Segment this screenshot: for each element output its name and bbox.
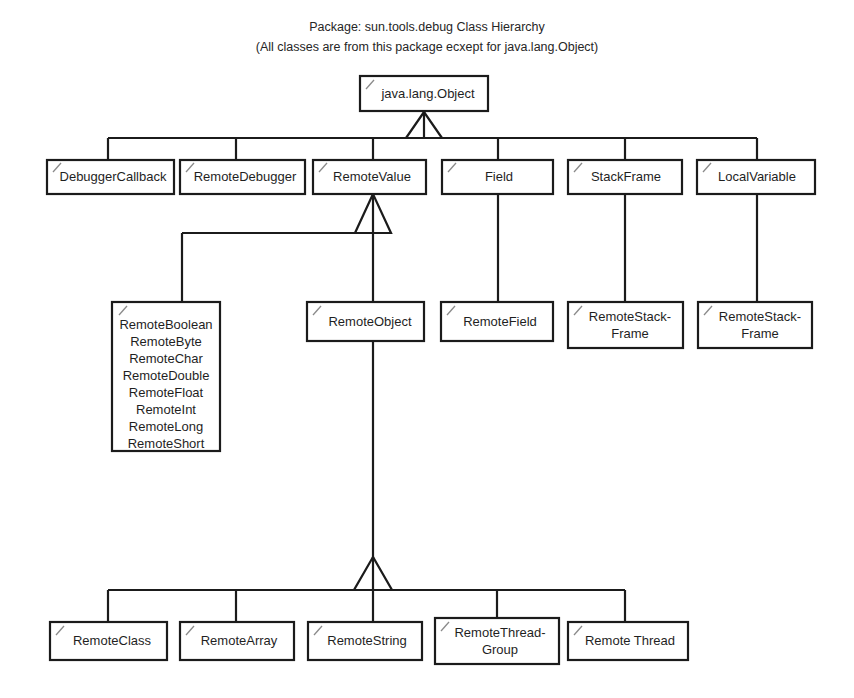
class-box-remotefield[interactable]: RemoteField [441, 302, 553, 341]
class-box-label: java.lang.Object [380, 86, 475, 101]
class-box-label-line: RemoteBoolean [119, 317, 212, 332]
class-box-remotevalue[interactable]: RemoteValue [313, 160, 426, 194]
class-box-debuggercallback[interactable]: DebuggerCallback [47, 160, 174, 194]
connector-remotevalue-to-level3 [182, 212, 373, 302]
diagram-canvas: Package: sun.tools.debug Class Hierarchy… [0, 0, 854, 698]
class-box-remoteobject[interactable]: RemoteObject [307, 302, 424, 341]
class-box-field[interactable]: Field [442, 160, 553, 194]
class-box-label-line: RemoteLong [129, 419, 203, 434]
class-box-label: RemoteArray [201, 633, 278, 648]
class-box-label-line: RemoteInt [136, 402, 196, 417]
class-box-label: RemoteDebugger [194, 169, 297, 184]
class-box-remotestackframe-from-stackframe[interactable]: RemoteStack- Frame [568, 302, 683, 348]
class-box-remoteclass[interactable]: RemoteClass [50, 622, 167, 660]
class-box-remotestackframe-from-localvariable[interactable]: RemoteStack- Frame [698, 302, 812, 348]
class-box-label: RemoteObject [328, 314, 411, 329]
class-box-label-line: RemoteFloat [129, 385, 204, 400]
class-box-label: Remote Thread [585, 633, 675, 648]
class-box-label: RemoteValue [333, 169, 411, 184]
class-box-label-line: RemoteByte [130, 334, 202, 349]
class-box-remotestring[interactable]: RemoteString [308, 622, 422, 660]
class-box-remotethreadgroup[interactable]: RemoteThread- Group [435, 618, 559, 664]
class-box-java-lang-object[interactable]: java.lang.Object [360, 76, 488, 111]
class-box-localvariable[interactable]: LocalVariable [697, 160, 815, 194]
class-box-label-line: RemoteThread- [454, 625, 545, 640]
class-box-label: LocalVariable [718, 169, 796, 184]
class-box-label-line: RemoteChar [129, 351, 203, 366]
class-hierarchy-diagram: Package: sun.tools.debug Class Hierarchy… [0, 0, 854, 698]
class-box-label: RemoteString [327, 633, 406, 648]
class-box-label-line: RemoteStack- [589, 309, 671, 324]
class-box-label-line: RemoteStack- [719, 309, 801, 324]
class-box-label-line: Group [482, 642, 518, 657]
diagram-title-line-1: Package: sun.tools.debug Class Hierarchy [309, 20, 545, 34]
class-box-label: StackFrame [591, 169, 661, 184]
class-box-remotearray[interactable]: RemoteArray [180, 622, 294, 660]
class-box-label: RemoteClass [73, 633, 152, 648]
class-box-remotedebugger[interactable]: RemoteDebugger [180, 160, 305, 194]
class-box-stackframe[interactable]: StackFrame [568, 160, 682, 194]
diagram-subtitle-line-2: (All classes are from this package ecxep… [256, 40, 599, 54]
class-box-remote-primitives[interactable]: RemoteBoolean RemoteByte RemoteChar Remo… [112, 302, 220, 451]
class-box-remote-thread[interactable]: Remote Thread [568, 622, 688, 660]
class-box-label: RemoteField [463, 314, 537, 329]
class-box-label: Field [485, 169, 513, 184]
class-box-label-line: RemoteShort [128, 436, 205, 451]
class-box-label-line: RemoteDouble [123, 368, 210, 383]
class-box-label: DebuggerCallback [60, 169, 167, 184]
class-box-label-line: Frame [611, 326, 649, 341]
class-box-label-line: Frame [741, 326, 779, 341]
